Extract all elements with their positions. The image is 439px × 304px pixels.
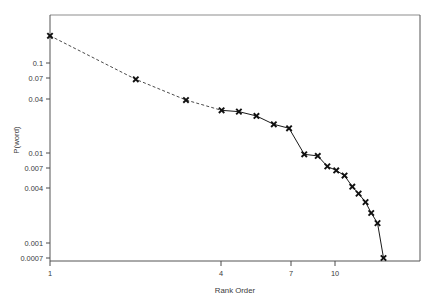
data-point-marker (325, 164, 330, 169)
data-point-marker (356, 191, 361, 196)
y-tick-label-0: 0.1 (33, 59, 43, 68)
y-tick-label-1: 0.07 (29, 74, 43, 83)
data-point-marker (363, 199, 368, 204)
data-point-marker (342, 173, 347, 178)
zipf-log-log-plot: 0.1 0.07 0.04 0.01 0.007 0.004 0.001 0.0… (0, 0, 439, 304)
y-tick-label-6: 0.001 (25, 239, 44, 248)
x-axis-ticks (50, 261, 335, 266)
y-axis-ticks (46, 63, 50, 258)
x-tick-label-2: 7 (289, 269, 293, 278)
figure-container: 0.1 0.07 0.04 0.01 0.007 0.004 0.001 0.0… (0, 0, 439, 304)
y-tick-label-3: 0.01 (29, 149, 43, 158)
series-line-solid-segment (222, 110, 384, 258)
data-point-marker (133, 77, 138, 82)
plot-frame (50, 15, 420, 261)
x-tick-label-1: 4 (219, 269, 223, 278)
data-point-marker (183, 97, 188, 102)
x-tick-label-3: 10 (331, 269, 339, 278)
y-tick-label-2: 0.04 (29, 95, 43, 104)
data-point-marker (334, 168, 339, 173)
y-tick-label-4: 0.007 (25, 164, 44, 173)
x-tick-label-0: 1 (48, 269, 52, 278)
y-tick-label-7: 0.0007 (20, 254, 43, 263)
data-point-markers (47, 33, 386, 261)
x-axis-title: Rank Order (215, 286, 256, 295)
y-tick-label-5: 0.004 (25, 184, 44, 193)
y-axis-tick-labels: 0.1 0.07 0.04 0.01 0.007 0.004 0.001 0.0… (20, 59, 43, 263)
data-point-marker (350, 184, 355, 189)
data-series-group (47, 33, 386, 261)
data-point-marker (369, 210, 374, 215)
y-axis-title: P(word) (12, 126, 21, 154)
x-axis-tick-labels: 1 4 7 10 (48, 269, 339, 278)
series-line-dashed-segment (50, 36, 222, 111)
